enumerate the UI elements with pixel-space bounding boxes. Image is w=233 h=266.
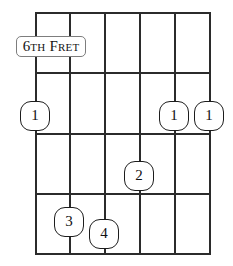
finger-marker-1-string-5: 1 bbox=[194, 101, 224, 131]
fret-label-ordinal: TH bbox=[30, 41, 45, 53]
finger-marker-3-string-1: 3 bbox=[54, 207, 84, 237]
string-line-3 bbox=[139, 12, 141, 255]
string-line-4 bbox=[174, 12, 176, 255]
fret-line-0 bbox=[35, 12, 211, 14]
fret-line-1 bbox=[35, 72, 211, 74]
string-line-5 bbox=[209, 12, 211, 255]
fret-line-3 bbox=[35, 193, 211, 195]
fret-label-word-initial: F bbox=[49, 38, 58, 54]
finger-marker-1-string-0: 1 bbox=[20, 101, 50, 131]
finger-marker-4-string-2: 4 bbox=[89, 219, 119, 249]
fret-position-label: 6TH FRET bbox=[16, 36, 86, 57]
guitar-chord-diagram: 111234 6TH FRET bbox=[0, 0, 233, 266]
finger-marker-2-string-3: 2 bbox=[124, 161, 154, 191]
fret-line-2 bbox=[35, 133, 211, 135]
finger-marker-1-string-4: 1 bbox=[159, 101, 189, 131]
fret-label-word-rest: RET bbox=[58, 41, 79, 53]
fret-line-4 bbox=[35, 253, 211, 255]
